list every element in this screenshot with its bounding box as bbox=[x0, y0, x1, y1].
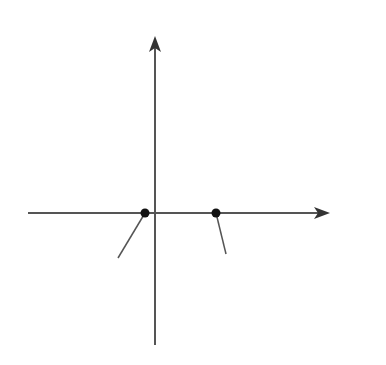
right-intercept-point bbox=[212, 209, 221, 218]
left-point-leader bbox=[118, 213, 145, 258]
right-point-leader bbox=[216, 213, 226, 254]
left-intercept-point bbox=[141, 209, 150, 218]
equation-label bbox=[0, 0, 370, 102]
parabola-chart bbox=[0, 0, 386, 365]
x-intercepts bbox=[36, 209, 308, 275]
